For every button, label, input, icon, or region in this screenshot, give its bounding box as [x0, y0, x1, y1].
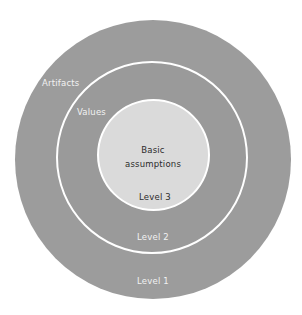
values-label: Values [77, 107, 106, 117]
level-2-label: Level 2 [137, 232, 169, 242]
basic-assumptions-label-line2: assumptions [125, 159, 181, 169]
basic-assumptions-label-line1: Basic [141, 145, 165, 155]
level-1-label: Level 1 [137, 276, 169, 286]
level-3-label: Level 3 [139, 192, 171, 202]
artifacts-label: Artifacts [42, 78, 79, 88]
